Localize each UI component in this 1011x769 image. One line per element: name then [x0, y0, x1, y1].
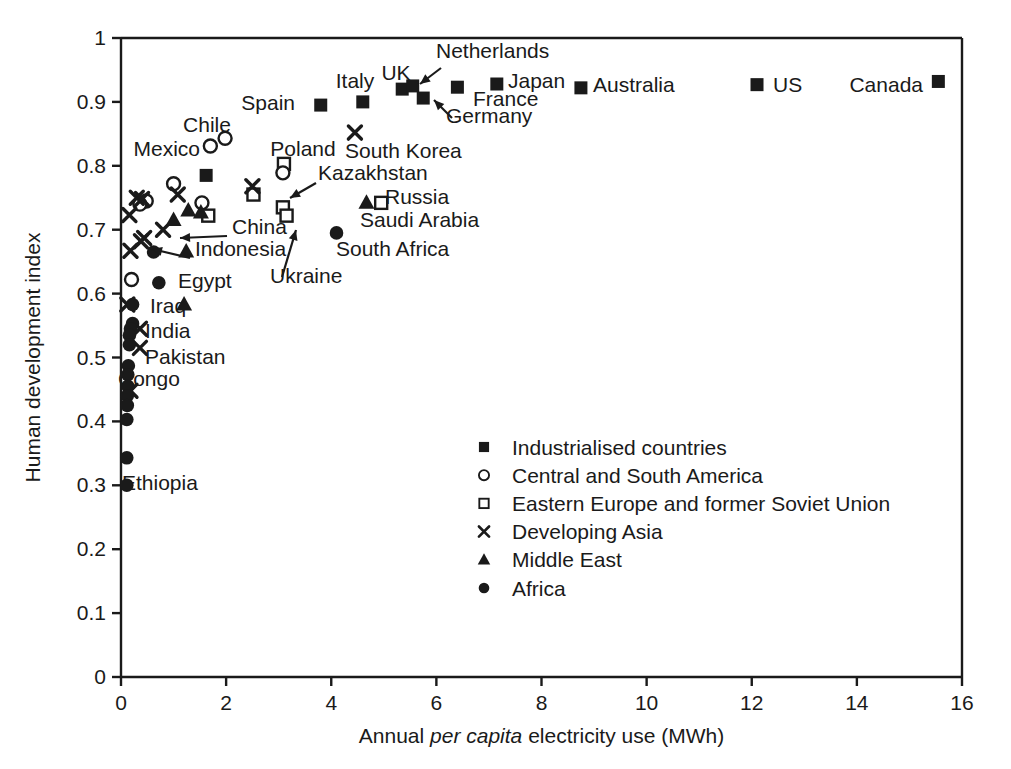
x-tick-label: 4	[325, 691, 337, 714]
marker-filled-circle	[479, 583, 490, 594]
marker-open-circle	[479, 470, 489, 480]
legend: Industrialised countriesCentral and Sout…	[478, 436, 890, 600]
point-label: Canada	[849, 73, 923, 96]
marker-filled-circle	[123, 338, 137, 352]
marker-filled-square	[314, 99, 327, 112]
y-tick-label: 0.6	[77, 282, 106, 305]
legend-item-label: Developing Asia	[512, 520, 663, 543]
point-label: China	[232, 215, 287, 238]
point-label: Japan	[508, 69, 565, 92]
marker-filled-circle	[120, 413, 134, 427]
y-tick-label: 0.8	[77, 154, 106, 177]
leader-arrowhead	[180, 233, 190, 242]
x-axis-ticks: 0246810121416	[115, 677, 974, 714]
marker-filled-square	[574, 81, 587, 94]
marker-filled-triangle	[180, 202, 196, 217]
marker-filled-square	[479, 442, 489, 452]
scatter-chart: 00.10.20.30.40.50.60.70.80.9102468101214…	[0, 0, 1011, 769]
marker-filled-triangle	[478, 553, 490, 564]
marker-open-circle	[125, 273, 138, 286]
marker-filled-triangle	[166, 212, 182, 227]
point-labels: SpainItalyUKNetherlandsGermanyFranceJapa…	[118, 39, 923, 494]
marker-filled-square	[751, 78, 764, 91]
y-tick-label: 0.9	[77, 90, 106, 113]
legend-item-label: Middle East	[512, 548, 622, 571]
y-axis-ticks: 00.10.20.30.40.50.60.70.80.91	[77, 26, 121, 688]
point-label: Kazakhstan	[318, 161, 428, 184]
x-axis-title: Annual per capita electricity use (MWh)	[359, 724, 724, 747]
leader-arrowhead	[289, 230, 298, 241]
point-label: Ukraine	[270, 264, 342, 287]
point-label: Ethiopia	[122, 471, 198, 494]
point-label: Egypt	[178, 269, 232, 292]
marker-cross	[479, 527, 489, 537]
point-label: Italy	[336, 69, 375, 92]
x-tick-label: 6	[431, 691, 443, 714]
point-label: Saudi Arabia	[360, 208, 479, 231]
y-tick-label: 0.3	[77, 473, 106, 496]
marker-filled-square	[451, 81, 464, 94]
x-tick-label: 12	[740, 691, 763, 714]
point-label: Australia	[593, 73, 675, 96]
point-label: UK	[381, 61, 410, 84]
y-tick-label: 0.4	[77, 409, 107, 432]
point-label: US	[773, 73, 802, 96]
point-label: Mexico	[133, 137, 200, 160]
marker-cross	[123, 209, 136, 222]
marker-cross	[124, 244, 137, 257]
marker-cross	[348, 126, 361, 139]
point-label: South Korea	[345, 139, 462, 162]
point-label: India	[145, 319, 191, 342]
y-tick-label: 0	[94, 665, 106, 688]
x-tick-label: 16	[950, 691, 973, 714]
y-axis-title: Human development index	[21, 232, 44, 482]
y-tick-label: 0.7	[77, 218, 106, 241]
legend-item-label: Eastern Europe and former Soviet Union	[512, 492, 890, 515]
marker-filled-square	[200, 169, 213, 182]
marker-open-circle	[276, 166, 289, 179]
point-label: Poland	[270, 137, 335, 160]
point-label: Spain	[241, 91, 295, 114]
marker-filled-square	[417, 92, 430, 105]
data-points	[120, 75, 945, 492]
point-label: Chile	[183, 113, 231, 136]
marker-filled-circle	[152, 276, 166, 290]
x-tick-label: 10	[635, 691, 658, 714]
x-tick-label: 14	[845, 691, 869, 714]
y-tick-label: 0.2	[77, 537, 106, 560]
x-tick-label: 0	[115, 691, 127, 714]
marker-open-circle	[204, 139, 217, 152]
y-tick-label: 1	[94, 26, 106, 49]
point-label: Iraq	[150, 294, 186, 317]
point-label: Indonesia	[195, 237, 286, 260]
point-label: Russia	[385, 185, 450, 208]
point-label: South Africa	[336, 237, 450, 260]
chart-canvas: 00.10.20.30.40.50.60.70.80.9102468101214…	[0, 0, 1011, 769]
marker-filled-square	[932, 75, 945, 88]
legend-item-label: Central and South America	[512, 464, 763, 487]
x-tick-label: 8	[536, 691, 548, 714]
legend-item-label: Africa	[512, 577, 566, 600]
point-label: Pakistan	[145, 345, 226, 368]
marker-filled-circle	[126, 298, 140, 312]
point-label: Congo	[118, 367, 180, 390]
marker-filled-square	[356, 95, 369, 108]
point-label: Netherlands	[436, 39, 549, 62]
marker-filled-triangle	[358, 194, 374, 209]
y-tick-label: 0.1	[77, 601, 106, 624]
marker-filled-circle	[120, 451, 134, 465]
marker-filled-circle	[121, 399, 135, 413]
x-tick-label: 2	[220, 691, 232, 714]
legend-item-label: Industrialised countries	[512, 436, 727, 459]
marker-open-square	[479, 499, 488, 508]
y-tick-label: 0.5	[77, 346, 106, 369]
